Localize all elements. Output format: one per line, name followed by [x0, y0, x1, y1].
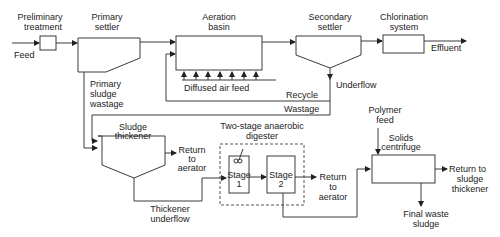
digester-stage-2: Stage 2	[267, 156, 295, 193]
digester-label-2: digester	[246, 131, 278, 141]
chlorination-system-unit: Chlorination system	[380, 12, 428, 53]
secondary-settler-label-2: settler	[318, 22, 343, 32]
stage-1-label-2: 1	[236, 179, 241, 189]
anaerobic-digester-unit: Two-stage anaerobic digester Stage 1 Sta…	[220, 121, 304, 205]
return-thickener-label-3: thickener	[452, 184, 489, 194]
diffused-air-feed: Diffused air feed	[182, 72, 276, 93]
digester-stage-1: Stage 1	[227, 149, 251, 193]
thickener-underflow-label-1: Thickener	[150, 204, 190, 214]
sludge-thickener-unit: Sludge thickener	[98, 122, 165, 178]
preliminary-treatment-label-2: treatment	[24, 22, 63, 32]
thickener-return-to-aerator: Return to aerator	[165, 145, 206, 173]
primary-settler-unit: Primary settler	[78, 12, 140, 72]
polymer-feed-label-1: Polymer	[368, 105, 401, 115]
secondary-settler-unit: Secondary settler	[296, 12, 361, 68]
preliminary-treatment-label-1: Preliminary	[17, 12, 63, 22]
return-aerator-1-label-3: aerator	[178, 163, 207, 173]
polymer-feed-label-2: feed	[376, 115, 394, 125]
return-thickener-label-1: Return to	[449, 164, 486, 174]
final-waste-label-2: sludge	[413, 219, 440, 229]
process-flow-diagram: Feed Preliminary treatment Primary settl…	[0, 0, 500, 237]
return-aerator-2-label-1: Return	[319, 172, 346, 182]
diffused-air-label: Diffused air feed	[184, 83, 249, 93]
return-aerator-2-label-2: to	[329, 182, 337, 192]
feed-label: Feed	[14, 50, 35, 60]
return-to-thickener-stream: Return to sludge thickener	[435, 164, 488, 194]
effluent-stream: Effluent	[424, 41, 466, 53]
wastage-label: Wastage	[284, 104, 319, 114]
chlorination-label-1: Chlorination	[380, 12, 428, 22]
primary-settler-label-2: settler	[95, 22, 120, 32]
secondary-settler-label-1: Secondary	[308, 12, 352, 22]
chlorination-label-2: system	[390, 22, 419, 32]
final-waste-label-1: Final waste	[403, 209, 449, 219]
solids-centrifuge-unit: Solids centrifuge	[372, 133, 435, 183]
aeration-basin-label-2: basin	[208, 22, 230, 32]
recycle-label: Recycle	[286, 90, 318, 100]
aeration-basin-label-1: Aeration	[202, 12, 236, 22]
solids-centrifuge-label-2: centrifuge	[381, 142, 421, 152]
aeration-basin-unit: Aeration basin	[176, 12, 262, 70]
digester-return-to-aerator: Return to aerator	[295, 172, 347, 202]
primary-sludge-label-2: sludge	[90, 89, 117, 99]
digester-label-1: Two-stage anaerobic	[220, 121, 304, 131]
effluent-label: Effluent	[431, 43, 462, 53]
primary-sludge-label-3: wastage	[89, 99, 124, 109]
return-thickener-label-2: sludge	[457, 174, 484, 184]
preliminary-treatment-unit: Preliminary treatment	[17, 12, 63, 50]
thickener-underflow-label-2: underflow	[150, 214, 190, 224]
final-waste-sludge-stream: Final waste sludge	[403, 183, 449, 229]
feed-stream: Feed	[12, 43, 39, 60]
underflow-label: Underflow	[336, 80, 377, 90]
thickener-underflow-stream: Thickener underflow	[134, 178, 226, 224]
sludge-thickener-label-2: thickener	[115, 131, 152, 141]
primary-settler-label-1: Primary	[92, 12, 123, 22]
return-aerator-2-label-3: aerator	[319, 192, 348, 202]
stage-2-label-2: 2	[278, 179, 283, 189]
primary-sludge-label-1: Primary	[90, 79, 121, 89]
